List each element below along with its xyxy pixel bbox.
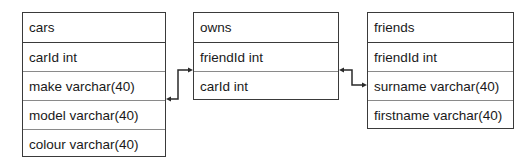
relation-connectors — [0, 0, 532, 165]
arrow-head-icon — [362, 83, 367, 88]
relation-owns-friends — [341, 70, 365, 85]
relation-cars-owns — [168, 70, 191, 99]
arrow-head-icon — [339, 68, 344, 73]
arrow-head-icon — [166, 97, 171, 102]
arrow-head-icon — [188, 68, 193, 73]
